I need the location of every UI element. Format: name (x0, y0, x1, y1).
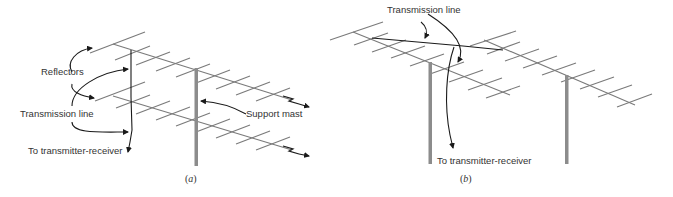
label-transmission-line-a: Transmission line (20, 109, 94, 119)
left-yagi-array (330, 22, 520, 98)
antenna-array-diagram (0, 0, 673, 197)
reflector-element (90, 32, 145, 53)
element (523, 56, 557, 68)
break-symbol (283, 146, 299, 154)
element (430, 62, 464, 74)
label-to-transmitter-a: To transmitter-receiver (28, 146, 123, 156)
support-mast-left (429, 62, 433, 164)
support-mast-arrow (201, 101, 246, 114)
caption-a: (a) (185, 174, 197, 184)
transmission-arrow-left (421, 22, 426, 38)
boom (484, 40, 635, 105)
label-to-transmitter-b: To transmitter-receiver (437, 156, 532, 166)
break-symbol (283, 96, 299, 104)
right-yagi-array (470, 31, 652, 107)
upper-yagi-array (90, 32, 292, 101)
element (156, 58, 190, 71)
support-mast (195, 68, 199, 166)
continuation-arrow (299, 154, 309, 156)
element (449, 70, 483, 82)
support-mast-right (565, 75, 569, 164)
element (410, 54, 444, 66)
transmission-arrow-right (428, 14, 461, 62)
continuation-arrow (299, 104, 309, 107)
element (176, 64, 210, 77)
element (542, 63, 576, 75)
label-transmission-line-b: Transmission line (387, 5, 461, 15)
label-support-mast: Support mast (246, 109, 303, 119)
feed-line (447, 47, 454, 148)
transmission-arrow-lower (72, 122, 128, 132)
element (391, 46, 425, 58)
panel-b (330, 14, 652, 164)
boom (113, 44, 292, 100)
element (136, 52, 170, 65)
caption-b: (b) (460, 174, 472, 184)
label-reflectors: Reflectors (41, 67, 84, 77)
element (115, 46, 150, 60)
transmission-line (372, 38, 503, 50)
boom (113, 96, 292, 150)
